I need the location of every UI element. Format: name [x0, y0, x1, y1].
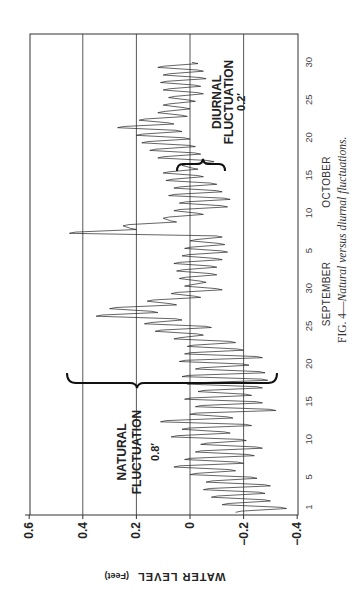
- water-level-tick-label: 0.4: [76, 522, 90, 539]
- figure-caption: FIG. 4—Natural versus diurnal fluctuatio…: [336, 137, 349, 343]
- water-level-tick-label: 0.2: [129, 522, 143, 539]
- diurnal-fluctuation-brace: [177, 159, 225, 171]
- natural-label-line1: NATURAL: [115, 423, 129, 480]
- axis-title-unit: (Feet): [105, 571, 130, 581]
- month-label-october: OCTOBER: [321, 156, 332, 207]
- water-level-tick-label: −0.2: [237, 522, 251, 546]
- water-level-tick-label: 0.6: [22, 522, 36, 539]
- water-level-axis-title: WATER LEVEL(Feet): [105, 571, 226, 583]
- natural-fluctuation-label: NATURAL FLUCTUATION 0.8′: [115, 410, 161, 494]
- caption-text: Natural versus diurnal fluctuations.: [336, 137, 349, 303]
- water-level-tick-label: −0.4: [290, 522, 304, 546]
- water-level-tick-label: 0: [183, 522, 197, 529]
- chart: 0.60.40.20−0.2−0.4 151015202530510152025…: [0, 0, 363, 603]
- water-level-ticks: 0.60.40.20−0.2−0.4: [22, 515, 304, 546]
- day-tick-label: 10: [303, 434, 314, 445]
- plot-frame: [30, 34, 298, 515]
- diurnal-label-line2: FLUCTUATION: [222, 60, 236, 144]
- day-ticks: 15101520253051015202530: [303, 57, 314, 510]
- diurnal-label-value: 0.2′: [235, 93, 247, 111]
- diurnal-fluctuation-label: DIURNAL FLUCTUATION 0.2′: [210, 60, 247, 144]
- day-tick-label: 15: [303, 170, 314, 181]
- day-tick-label: 25: [303, 321, 314, 332]
- day-tick-label: 1: [303, 504, 314, 509]
- month-label-september: SEPTEMBER: [321, 262, 332, 326]
- water-level-line: [69, 62, 286, 512]
- day-tick-label: 5: [303, 248, 314, 253]
- day-tick-label: 30: [303, 283, 314, 294]
- natural-label-value: 0.8′: [149, 443, 161, 461]
- svg-text:WATER LEVEL(Feet): WATER LEVEL(Feet): [105, 571, 226, 583]
- axis-title-text: WATER LEVEL: [137, 571, 225, 583]
- day-tick-label: 25: [303, 95, 314, 106]
- day-tick-label: 10: [303, 208, 314, 219]
- day-tick-label: 30: [303, 57, 314, 68]
- day-tick-label: 5: [303, 474, 314, 479]
- caption-prefix: FIG. 4—: [336, 301, 348, 343]
- natural-fluctuation-brace: [67, 373, 277, 388]
- svg-text:FIG. 4—Natural versus diurnal: FIG. 4—Natural versus diurnal fluctuatio…: [336, 137, 349, 343]
- day-tick-label: 20: [303, 132, 314, 143]
- natural-label-line2: FLUCTUATION: [130, 410, 144, 494]
- day-tick-label: 20: [303, 358, 314, 369]
- day-tick-label: 15: [303, 396, 314, 407]
